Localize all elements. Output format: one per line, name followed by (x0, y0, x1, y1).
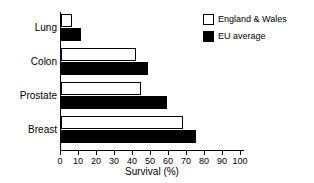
bar-colon-england-wales (61, 48, 136, 61)
survival-bar-chart: England & Wales EU average Lung Colon Pr… (0, 0, 314, 183)
x-tick-mark-10 (78, 151, 79, 155)
x-tick-mark-90 (222, 151, 223, 155)
x-tick-label-100: 100 (228, 156, 252, 166)
x-tick-mark-30 (114, 151, 115, 155)
x-tick-mark-60 (168, 151, 169, 155)
x-tick-mark-80 (204, 151, 205, 155)
x-tick-mark-50 (150, 151, 151, 155)
bar-prostate-eu-average (61, 96, 167, 109)
bar-prostate-england-wales (61, 82, 141, 95)
bar-colon-eu-average (61, 62, 148, 75)
bar-breast-eu-average (61, 130, 196, 143)
x-tick-mark-100 (240, 151, 241, 155)
x-tick-mark-0 (60, 151, 61, 155)
x-tick-mark-40 (132, 151, 133, 155)
plot-area: 0 10 20 30 40 50 60 70 80 90 100 (61, 12, 243, 150)
y-tick-label-lung: Lung (0, 22, 57, 33)
x-tick-mark-20 (96, 151, 97, 155)
x-tick-mark-70 (186, 151, 187, 155)
bar-lung-eu-average (61, 28, 81, 41)
y-tick-label-breast: Breast (0, 124, 57, 135)
x-axis-line (60, 150, 244, 151)
bar-breast-england-wales (61, 116, 183, 129)
x-axis-title: Survival (%) (61, 166, 243, 177)
y-axis-labels: Lung Colon Prostate Breast (0, 12, 57, 150)
y-tick-label-colon: Colon (0, 56, 57, 67)
y-tick-label-prostate: Prostate (0, 90, 57, 101)
bar-lung-england-wales (61, 14, 72, 27)
